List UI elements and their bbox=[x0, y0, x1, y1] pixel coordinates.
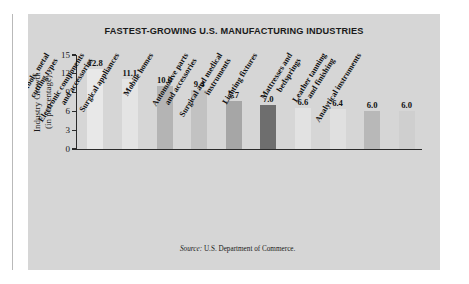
source-prefix: Source: bbox=[180, 245, 202, 253]
left-margin-rule bbox=[12, 14, 13, 270]
chart-figure: FASTEST-GROWING U.S. MANUFACTURING INDUS… bbox=[0, 0, 469, 284]
chart-title: FASTEST-GROWING U.S. MANUFACTURING INDUS… bbox=[28, 26, 440, 36]
bar-value-label: 6.0 bbox=[356, 100, 388, 110]
y-tick-0 bbox=[72, 148, 76, 149]
source-text: U.S. Department of Commerce. bbox=[204, 245, 295, 253]
bar bbox=[364, 111, 380, 149]
bar bbox=[330, 109, 346, 149]
chart-panel: FASTEST-GROWING U.S. MANUFACTURING INDUS… bbox=[28, 14, 440, 270]
bar bbox=[399, 111, 415, 149]
source-note: Source: U.S. Department of Commerce. bbox=[180, 245, 295, 253]
bar-value-label: 6.0 bbox=[391, 100, 423, 110]
